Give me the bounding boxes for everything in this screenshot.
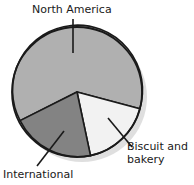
pie-label-biscuit-line-1: Biscuit and bbox=[127, 140, 188, 153]
pie-label-north-america: North America bbox=[32, 3, 112, 16]
pie-label-biscuit-and-bakery: Biscuit andbakery bbox=[127, 140, 188, 166]
pie-label-biscuit-line-2: bakery bbox=[127, 153, 165, 166]
pie-label-international: International bbox=[3, 168, 73, 181]
